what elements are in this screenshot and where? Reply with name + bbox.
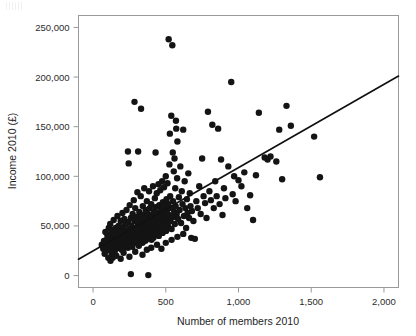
y-tick-label: 0 [64, 270, 69, 281]
data-point [238, 183, 244, 189]
x-tick-label: 1,000 [227, 296, 251, 307]
data-point [172, 185, 178, 191]
data-point [225, 163, 231, 169]
data-point [232, 198, 238, 204]
y-tick-label: 50,000 [40, 220, 69, 231]
data-point [127, 202, 133, 208]
scan-artifact [6, 2, 22, 10]
data-point [215, 125, 221, 131]
trendline [79, 76, 399, 259]
data-point [189, 208, 195, 214]
data-point [163, 240, 169, 246]
data-point [125, 148, 131, 154]
data-point [197, 211, 203, 217]
data-point [241, 169, 247, 175]
data-point [222, 195, 228, 201]
data-point [200, 193, 206, 199]
data-point [235, 177, 241, 183]
data-point [176, 207, 182, 213]
y-axis-ticks [74, 27, 79, 275]
data-point [221, 185, 227, 191]
scatter-plot-figure: 05001,0001,5002,000 050,000100,000150,00… [0, 0, 416, 336]
data-point [135, 148, 141, 154]
data-point [158, 246, 164, 252]
data-point [132, 249, 138, 255]
data-point [276, 126, 282, 132]
data-point [131, 99, 137, 105]
data-point [192, 236, 198, 242]
data-point [150, 183, 156, 189]
data-point [288, 122, 294, 128]
data-point [148, 245, 154, 251]
data-point [179, 188, 185, 194]
data-point [171, 155, 177, 161]
data-point [168, 237, 174, 243]
data-point [174, 175, 180, 181]
data-point [180, 126, 186, 132]
data-point [173, 125, 179, 131]
chart-canvas: 05001,0001,5002,000 050,000100,000150,00… [0, 0, 416, 336]
data-point [165, 36, 171, 42]
data-point [206, 188, 212, 194]
data-point [203, 215, 209, 221]
data-point [216, 201, 222, 207]
data-point [138, 193, 144, 199]
data-point [173, 118, 179, 124]
data-point [139, 252, 145, 258]
data-point [174, 138, 180, 144]
data-point [152, 149, 158, 155]
data-point [181, 178, 187, 184]
data-point [253, 172, 259, 178]
data-point [199, 155, 205, 161]
data-point [213, 193, 219, 199]
data-point [183, 225, 189, 231]
data-point [247, 192, 253, 198]
y-axis-tick-labels: 050,000100,000150,000200,000250,000 [35, 22, 69, 281]
data-point [250, 217, 256, 223]
scatter-points [99, 36, 324, 278]
data-point [185, 170, 191, 176]
x-axis-ticks [93, 288, 384, 293]
data-point [166, 161, 172, 167]
data-point [279, 176, 285, 182]
data-point [146, 188, 152, 194]
y-axis-title: Income 2010 (£) [6, 113, 18, 189]
data-point [256, 110, 262, 116]
data-point [177, 163, 183, 169]
y-tick-label: 150,000 [35, 121, 69, 132]
data-point [170, 149, 176, 155]
data-point [145, 272, 151, 278]
x-axis-tick-labels: 05001,0001,5002,000 [90, 296, 395, 307]
data-point [219, 212, 225, 218]
data-point [169, 42, 175, 48]
data-point [267, 153, 273, 159]
data-point [125, 160, 131, 166]
data-point [195, 205, 201, 211]
data-point [193, 198, 199, 204]
data-point [164, 180, 170, 186]
data-point [205, 109, 211, 115]
data-point [178, 220, 184, 226]
data-point [218, 156, 224, 162]
data-point [176, 194, 182, 200]
x-axis-title: Number of members 2010 [177, 315, 299, 327]
data-point [171, 168, 177, 174]
data-point [229, 191, 235, 197]
y-tick-label: 100,000 [35, 171, 69, 182]
data-point [211, 205, 217, 211]
data-point [126, 254, 132, 260]
y-tick-label: 250,000 [35, 22, 69, 33]
data-point [317, 174, 323, 180]
data-point [131, 197, 137, 203]
data-point [311, 133, 317, 139]
data-point [283, 103, 289, 109]
x-tick-label: 1,500 [299, 296, 323, 307]
data-point [167, 130, 173, 136]
data-point [117, 256, 123, 262]
y-tick-label: 200,000 [35, 72, 69, 83]
data-point [120, 250, 126, 256]
data-point [190, 218, 196, 224]
x-tick-label: 2,000 [372, 296, 396, 307]
data-point [228, 79, 234, 85]
data-point [244, 205, 250, 211]
